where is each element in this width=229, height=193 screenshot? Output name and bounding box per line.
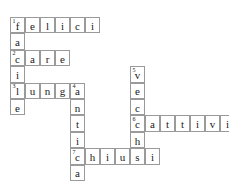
cell-letter: c xyxy=(131,118,144,130)
cell-letter: u xyxy=(26,85,39,97)
cell-letter: c xyxy=(71,20,84,32)
crossword-cell[interactable]: i xyxy=(145,148,160,164)
cell-letter: a xyxy=(11,36,24,48)
crossword-cell[interactable]: t xyxy=(70,115,85,131)
crossword-cell[interactable]: i xyxy=(190,115,205,131)
crossword-cell[interactable]: t xyxy=(175,115,190,131)
crossword-cell[interactable]: i xyxy=(70,132,85,148)
crossword-cell[interactable]: g xyxy=(55,83,70,99)
crossword-cell[interactable]: 6c xyxy=(130,115,145,131)
cell-letter: i xyxy=(56,20,69,32)
cell-letter: h xyxy=(131,135,144,147)
crossword-cell[interactable]: h xyxy=(130,132,145,148)
crossword-cell[interactable]: e xyxy=(25,17,40,33)
crossword-cell[interactable]: i xyxy=(85,17,100,33)
crossword-cell[interactable]: 1f xyxy=(10,17,25,33)
cell-letter: t xyxy=(161,118,174,130)
cell-letter: i xyxy=(11,69,24,81)
crossword-cell[interactable]: v xyxy=(205,115,220,131)
crossword-cell[interactable]: s xyxy=(130,148,145,164)
crossword-cell[interactable]: a xyxy=(70,165,85,181)
crossword-cell[interactable]: n xyxy=(40,83,55,99)
crossword-cell[interactable]: u xyxy=(25,83,40,99)
cell-letter: u xyxy=(116,151,129,163)
cell-letter: h xyxy=(86,151,99,163)
cell-letter: e xyxy=(11,102,24,114)
crossword-cell[interactable]: e xyxy=(130,83,145,99)
crossword-cell[interactable]: u xyxy=(115,148,130,164)
cell-letter: r xyxy=(41,53,54,65)
crossword-cell[interactable]: h xyxy=(85,148,100,164)
cell-letter: g xyxy=(56,85,69,97)
cell-letter: f xyxy=(11,20,24,32)
crossword-cell[interactable]: a xyxy=(145,115,160,131)
crossword-cell[interactable]: r xyxy=(40,50,55,66)
cell-letter: v xyxy=(206,118,219,130)
cell-letter: n xyxy=(71,102,84,114)
cell-letter: t xyxy=(71,118,84,130)
crossword-cell[interactable]: 7c xyxy=(70,148,85,164)
crossword-cell[interactable]: c xyxy=(130,99,145,115)
cell-letter: v xyxy=(131,69,144,81)
cell-letter: i xyxy=(191,118,204,130)
crossword-cell[interactable]: i xyxy=(10,66,25,82)
crossword-cell[interactable]: c xyxy=(70,17,85,33)
cell-letter: c xyxy=(11,53,24,65)
cell-letter: s xyxy=(131,151,144,163)
crossword-grid: 1felicia2carei5v3lung4aeenct6cattiviih7c… xyxy=(0,0,229,193)
cell-letter: i xyxy=(86,20,99,32)
cell-letter: n xyxy=(41,85,54,97)
crossword-cell[interactable]: n xyxy=(70,99,85,115)
cell-letter: c xyxy=(71,151,84,163)
crossword-cell[interactable]: 2c xyxy=(10,50,25,66)
cell-letter: i xyxy=(71,135,84,147)
crossword-cell[interactable]: e xyxy=(10,99,25,115)
crossword-cell[interactable]: 3l xyxy=(10,83,25,99)
crossword-cell[interactable]: 5v xyxy=(130,66,145,82)
cell-letter: i xyxy=(221,118,229,130)
cell-letter: c xyxy=(131,102,144,114)
crossword-cell[interactable]: e xyxy=(55,50,70,66)
cell-letter: l xyxy=(41,20,54,32)
cell-letter: a xyxy=(71,167,84,179)
crossword-cell[interactable]: a xyxy=(25,50,40,66)
cell-letter: a xyxy=(71,85,84,97)
crossword-cell[interactable]: i xyxy=(220,115,229,131)
crossword-cell[interactable]: i xyxy=(100,148,115,164)
cell-letter: e xyxy=(26,20,39,32)
crossword-cell[interactable]: 4a xyxy=(70,83,85,99)
cell-letter: i xyxy=(146,151,159,163)
cell-letter: a xyxy=(26,53,39,65)
cell-letter: e xyxy=(131,85,144,97)
crossword-cell[interactable]: t xyxy=(160,115,175,131)
crossword-cell[interactable]: a xyxy=(10,33,25,49)
crossword-cell[interactable]: i xyxy=(55,17,70,33)
cell-letter: e xyxy=(56,53,69,65)
crossword-cell[interactable]: l xyxy=(40,17,55,33)
cell-letter: i xyxy=(101,151,114,163)
cell-letter: t xyxy=(176,118,189,130)
cell-letter: l xyxy=(11,85,24,97)
cell-letter: a xyxy=(146,118,159,130)
